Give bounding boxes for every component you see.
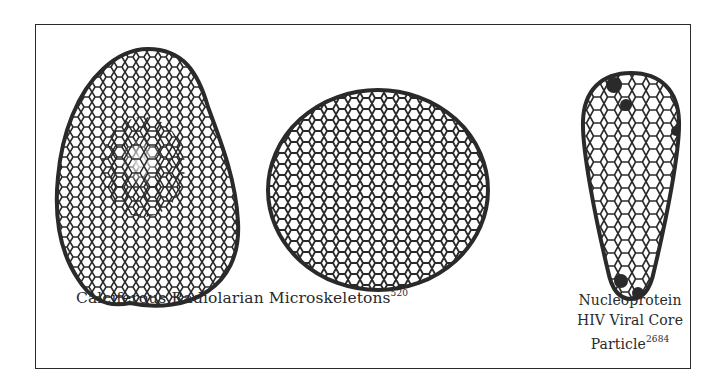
caption-radiolarian-text: Calciferous Radiolarian Microskeletons bbox=[76, 289, 391, 307]
caption-hiv-line3-text: Particle bbox=[591, 336, 646, 352]
caption-hiv-line1: Nucleoprotein bbox=[574, 290, 686, 310]
ovoid-microskeleton-drawing bbox=[48, 47, 248, 317]
figure-frame: Calciferous Radiolarian Microskeletons52… bbox=[35, 24, 691, 369]
caption-radiolarian: Calciferous Radiolarian Microskeletons52… bbox=[76, 289, 408, 307]
hiv-core-particle-drawing bbox=[576, 71, 686, 301]
caption-hiv-line3: Particle2684 bbox=[574, 330, 686, 354]
caption-hiv-line2: HIV Viral Core bbox=[574, 310, 686, 330]
caption-hiv-core: Nucleoprotein HIV Viral Core Particle268… bbox=[574, 290, 686, 354]
caption-hiv-ref: 2684 bbox=[646, 334, 669, 344]
spherical-microskeleton-drawing bbox=[264, 87, 492, 293]
caption-radiolarian-ref: 520 bbox=[391, 288, 408, 298]
